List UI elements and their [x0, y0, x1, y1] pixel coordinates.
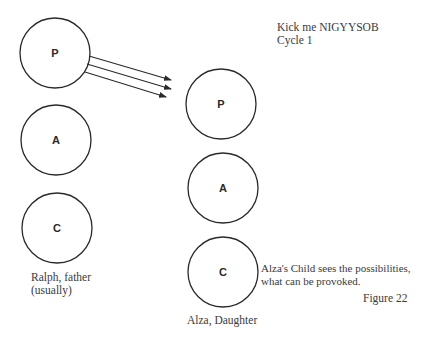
left-parent-letter: P [51, 47, 58, 59]
left-person-label-line-2: (usually) [31, 284, 91, 297]
right-child-state: C [188, 237, 258, 307]
right-child-letter: C [219, 266, 227, 278]
left-adult-state: A [21, 105, 91, 175]
title-line-1: Kick me NIGYYSOB [277, 21, 379, 34]
right-person-label: Alza, Daughter [187, 314, 257, 327]
left-parent-state: P [20, 18, 90, 88]
left-person-label-line-1: Ralph, father [31, 271, 91, 284]
transaction-arrows [85, 56, 171, 97]
child-annotation: Alza's Child sees the possibilities, wha… [261, 262, 411, 288]
figure-caption: Figure 22 [363, 292, 407, 305]
left-person-label: Ralph, father (usually) [31, 271, 91, 297]
left-adult-letter: A [52, 134, 60, 146]
right-parent-letter: P [217, 98, 224, 110]
right-parent-state: P [186, 69, 256, 139]
right-adult-letter: A [219, 182, 227, 194]
title-line-2: Cycle 1 [277, 34, 379, 47]
left-child-letter: C [53, 222, 61, 234]
diagram-title: Kick me NIGYYSOB Cycle 1 [277, 21, 379, 47]
annotation-line-1: Alza's Child sees the possibilities, [261, 262, 411, 275]
right-adult-state: A [188, 153, 258, 223]
left-child-state: C [22, 193, 92, 263]
annotation-line-2: what can be provoked. [261, 275, 411, 288]
